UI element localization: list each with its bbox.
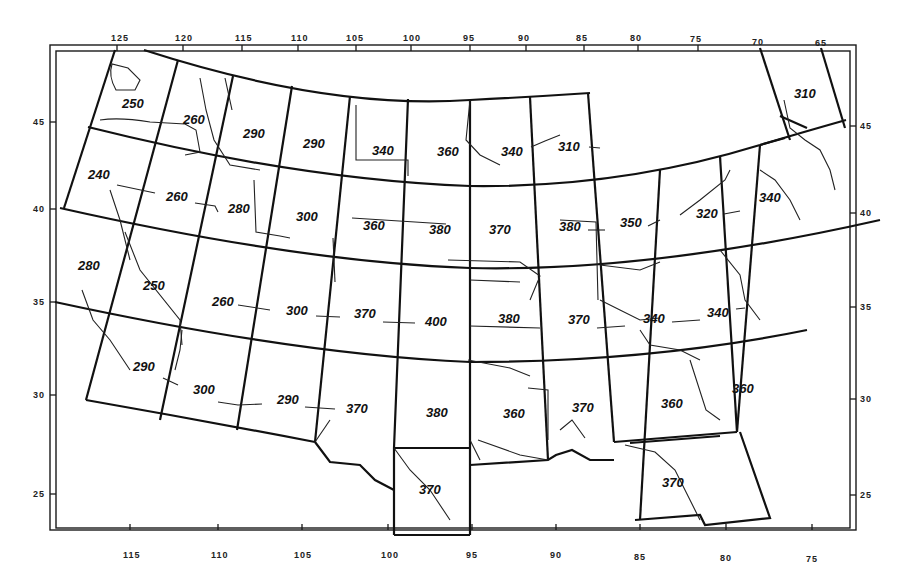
cell-value: 370 [568,312,590,327]
right-ticks [850,126,856,495]
cell-value: 340 [707,305,729,320]
cell-value: 370 [419,482,441,497]
cell-value: 380 [426,405,448,420]
lon-label: 80 [630,33,642,43]
lon-label: 115 [235,33,253,43]
lon-label: 105 [346,33,364,43]
lon-label: 110 [291,33,309,43]
cell-value: 360 [437,144,459,159]
left-tick-labels: 45 40 35 30 25 [33,117,45,499]
cell-value: 300 [193,382,215,397]
lon-label: 85 [634,552,646,562]
cell-value: 280 [77,258,100,273]
cell-value: 250 [121,96,144,111]
cell-value: 380 [559,219,581,234]
map-inner-frame [56,51,850,528]
cell-value: 240 [87,167,110,182]
cell-value: 290 [242,126,265,141]
left-ticks [50,122,56,494]
cell-value: 260 [211,294,234,309]
state-boundaries [82,64,835,520]
lon-label: 90 [518,33,530,43]
cell-value: 340 [372,143,394,158]
cell-value: 360 [503,406,525,421]
lat-label: 30 [33,390,45,400]
bottom-tick-labels: 115 110 105 100 95 90 85 80 75 [123,550,818,564]
lon-label: 125 [111,33,129,43]
cell-value: 380 [429,222,451,237]
cell-value: 300 [296,209,318,224]
lat-label: 40 [860,208,872,218]
lat-label: 40 [33,204,45,214]
cell-value: 340 [501,144,523,159]
cell-value: 370 [662,475,684,490]
right-tick-labels: 45 40 35 30 25 [860,121,872,500]
lon-label: 95 [466,550,478,560]
lon-label: 115 [123,550,141,560]
cell-value: 370 [572,400,594,415]
lon-label: 80 [720,553,732,563]
cell-value: 320 [696,206,718,221]
lat-label: 30 [860,394,872,404]
lat-label: 45 [860,121,872,131]
cell-value: 370 [346,401,368,416]
lat-label: 35 [33,297,45,307]
lat-label: 35 [860,302,872,312]
cell-value: 250 [142,278,165,293]
cell-value: 350 [620,215,642,230]
lat-label: 25 [33,489,45,499]
cell-value: 310 [558,139,580,154]
map-canvas: 125 120 115 110 105 100 95 90 85 80 75 7… [0,0,908,587]
cell-value: 340 [759,190,781,205]
cell-value: 400 [424,314,447,329]
lon-label: 75 [806,554,818,564]
top-ticks [117,45,698,51]
lon-label: 105 [294,550,312,560]
lon-label: 65 [815,38,827,48]
cell-value: 260 [165,189,188,204]
cell-value: 290 [132,359,155,374]
cell-value: 290 [302,136,325,151]
lon-label: 100 [381,550,399,560]
lon-label: 95 [463,33,475,43]
cell-value: 260 [182,112,205,127]
cell-value: 370 [489,222,511,237]
lon-label: 120 [175,33,193,43]
cell-value: 360 [661,396,683,411]
cell-value: 340 [643,311,665,326]
lat-label: 25 [860,490,872,500]
cell-value: 370 [354,306,376,321]
lon-label: 100 [403,33,421,43]
lon-label: 70 [752,37,764,47]
cell-value: 290 [276,392,299,407]
cell-value: 380 [498,311,520,326]
cell-value: 310 [794,86,816,101]
lon-label: 90 [550,550,562,560]
lon-label: 110 [211,550,229,560]
lon-label: 75 [690,34,702,44]
lon-label: 85 [576,33,588,43]
cell-value: 280 [227,201,250,216]
cell-value: 360 [732,381,754,396]
lat-label: 45 [33,117,45,127]
cell-value: 360 [363,218,385,233]
cell-value: 300 [286,303,308,318]
top-tick-labels: 125 120 115 110 105 100 95 90 85 80 75 7… [111,33,827,48]
map-outer-frame [50,45,856,530]
